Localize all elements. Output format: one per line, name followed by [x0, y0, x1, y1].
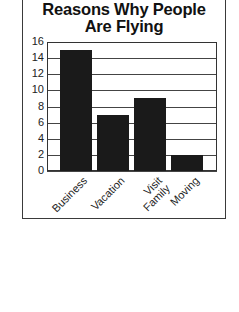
y-tick-label: 16: [24, 36, 44, 47]
y-tick-label: 0: [24, 165, 44, 176]
chart-title-line-2: Are Flying: [22, 18, 226, 35]
bar-moving: [171, 155, 203, 171]
bar-visit-family: [134, 98, 166, 171]
y-tick-label: 2: [24, 149, 44, 160]
y-tick-label: 6: [24, 117, 44, 128]
chart-title: Reasons Why People Are Flying: [22, 1, 226, 35]
chart-title-line-1: Reasons Why People: [22, 1, 226, 18]
bar-vacation: [97, 115, 129, 171]
y-tick-label: 14: [24, 52, 44, 63]
y-tick-label: 10: [24, 84, 44, 95]
y-tick-label: 12: [24, 68, 44, 79]
y-tick-label: 4: [24, 133, 44, 144]
bar-business: [60, 50, 92, 171]
gridline: [47, 171, 217, 172]
y-tick-label: 8: [24, 101, 44, 112]
